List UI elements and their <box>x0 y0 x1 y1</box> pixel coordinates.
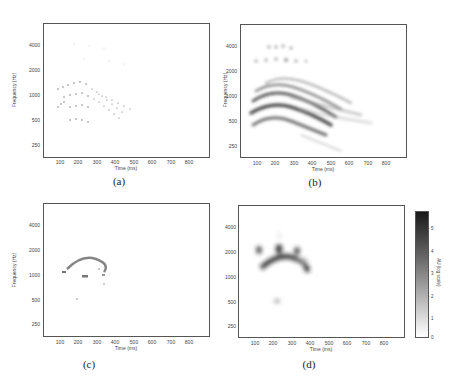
colorbar-tick: 5 <box>431 226 434 231</box>
colorbar-tick: 1 <box>431 316 434 321</box>
x-tick: 800 <box>376 340 392 346</box>
spectrogram-d <box>238 205 405 338</box>
y-tick: 250 <box>214 323 236 329</box>
colorbar-tick: 2 <box>431 294 434 299</box>
colorbar-tick: 3 <box>431 271 434 276</box>
y-tick: 4000 <box>214 224 236 230</box>
caption-d: (d) <box>294 358 324 370</box>
smoothed-mask-d <box>239 206 405 338</box>
x-tick: 700 <box>358 340 374 346</box>
y-tick: 500 <box>214 299 236 305</box>
colorbar <box>415 211 429 338</box>
colorbar-tick: 4 <box>431 249 434 254</box>
x-axis-label: Time (ms) <box>291 346 351 352</box>
colorbar-label: AU (log scale) <box>436 248 441 298</box>
y-tick: 2000 <box>214 249 236 255</box>
y-tick: 1000 <box>214 274 236 280</box>
panel-d: 4000 2000 1000 500 250 100 200 300 400 5… <box>0 0 451 388</box>
x-tick: 100 <box>247 340 263 346</box>
x-tick: 200 <box>265 340 281 346</box>
colorbar-tick: 0 <box>431 335 434 340</box>
